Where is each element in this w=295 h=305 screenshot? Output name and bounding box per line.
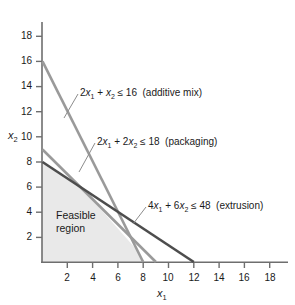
annotation-extrusion-rel: ≤ 48 (188, 200, 210, 211)
annotation-extrusion: 4x1 + 6x2 ≤ 48 (extrusion) (148, 200, 263, 214)
y-tick-label-6: 6 (10, 182, 32, 192)
y-axis-title: x2 (8, 129, 18, 144)
x-tick-label-2: 2 (57, 273, 77, 283)
x-axis-title: x1 (157, 287, 167, 302)
y-tick-label-12: 12 (10, 107, 32, 117)
x-tick-label-12: 12 (184, 273, 204, 283)
annotation-additive-mix-rel: ≤ 16 (115, 87, 137, 98)
annotation-additive-mix-note: (additive mix) (143, 87, 202, 98)
x-tick-label-18: 18 (260, 273, 280, 283)
x-tick-label-8: 8 (133, 273, 153, 283)
feasible-region-chart: 18 16 14 12 10 8 6 4 2 2 4 6 8 10 12 14 … (0, 0, 295, 305)
annotation-packaging-note: (packaging) (165, 136, 217, 147)
y-tick-label-14: 14 (10, 81, 32, 91)
feasible-region-label-line2: region (56, 222, 96, 235)
x-tick-label-10: 10 (158, 273, 178, 283)
x-axis-title-sub: 1 (163, 293, 167, 302)
y-axis-title-sub: 2 (14, 135, 18, 144)
feasible-region-label-line1: Feasible (56, 209, 96, 222)
x-tick-label-4: 4 (83, 273, 103, 283)
x-tick-label-14: 14 (209, 273, 229, 283)
annotation-additive-mix-mid: + (94, 87, 105, 98)
annotation-packaging-mid: + 2 (111, 136, 128, 147)
feasible-region-label: Feasible region (56, 209, 96, 235)
y-tick-label-8: 8 (10, 157, 32, 167)
annotation-extrusion-mid: + 6 (162, 200, 179, 211)
annotation-packaging: 2x1 + 2x2 ≤ 18 (packaging) (97, 136, 217, 150)
y-tick-label-16: 16 (10, 56, 32, 66)
y-tick-label-2: 2 (10, 232, 32, 242)
plot-area (0, 0, 295, 305)
annotation-additive-mix: 2x1 + x2 ≤ 16 (additive mix) (80, 87, 202, 101)
y-tick-label-4: 4 (10, 207, 32, 217)
y-axis-ticks (36, 36, 42, 237)
leader-line-extrusion (133, 207, 146, 224)
annotation-extrusion-note: (extrusion) (216, 200, 263, 211)
x-tick-label-16: 16 (234, 273, 254, 283)
annotation-packaging-rel: ≤ 18 (137, 136, 159, 147)
y-tick-label-18: 18 (10, 31, 32, 41)
x-tick-label-6: 6 (108, 273, 128, 283)
